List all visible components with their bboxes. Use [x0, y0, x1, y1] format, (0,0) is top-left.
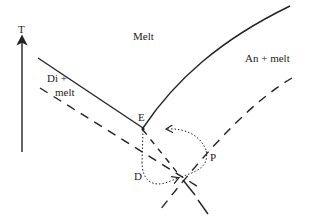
- di-melt-region-label-line2: melt: [55, 86, 75, 98]
- an-liquidus-curve: [143, 6, 290, 128]
- melt-region-label: Melt: [133, 30, 154, 42]
- an-melt-region-label: An + melt: [245, 52, 290, 64]
- an-metastable-liquidus: [160, 78, 292, 210]
- di-metastable-liquidus: [40, 88, 200, 188]
- di-melt-region-label-line1: Di +: [47, 72, 67, 84]
- temperature-axis-label: T: [18, 23, 25, 35]
- phase-diagram: T Melt Di + melt An + melt E D P: [0, 0, 314, 219]
- point-p-label: P: [210, 151, 216, 163]
- vertical-dotted-path: [142, 130, 143, 162]
- eutectic-point-label: E: [138, 111, 145, 123]
- diagram-canvas: T Melt Di + melt An + melt E D P: [0, 0, 314, 219]
- p-to-melt-dotted-path: [167, 129, 206, 150]
- crossing-to-p-dotted-path: [178, 150, 207, 178]
- point-d-label: D: [134, 170, 142, 182]
- di-liquidus-curve: [38, 58, 143, 128]
- d-to-crossing-dotted-path: [142, 162, 178, 184]
- eutectic-extension-line: [143, 130, 180, 176]
